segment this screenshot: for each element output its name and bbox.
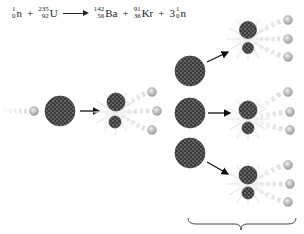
neutron-trail bbox=[254, 189, 257, 190]
neutron-icon bbox=[30, 107, 39, 116]
neutron-trail bbox=[266, 125, 269, 126]
neutron-trail bbox=[132, 99, 135, 101]
arrow-icon bbox=[207, 162, 228, 174]
neutron-trail bbox=[271, 24, 274, 26]
neutron-icon bbox=[284, 53, 293, 62]
uranium-nucleus bbox=[175, 98, 205, 128]
neutron-icon bbox=[284, 88, 293, 97]
neutron-trail bbox=[279, 128, 282, 129]
uranium-nucleus bbox=[175, 56, 205, 86]
krypton-fragment bbox=[109, 116, 121, 128]
neutron-trail bbox=[122, 117, 125, 118]
neutron-trail bbox=[260, 116, 263, 117]
neutron-trail bbox=[277, 166, 280, 168]
neutron-trail bbox=[277, 199, 280, 200]
neutron-trail bbox=[277, 21, 280, 23]
barium-fragment bbox=[239, 166, 257, 184]
barium-fragment bbox=[107, 93, 125, 111]
neutron-trail bbox=[266, 194, 269, 195]
neutron-trail bbox=[271, 98, 274, 100]
neutron-trail bbox=[266, 49, 269, 50]
neutron-trail bbox=[271, 197, 274, 198]
neutron-icon bbox=[284, 35, 293, 44]
neutron-icon bbox=[148, 126, 157, 135]
chain-reaction-diagram bbox=[0, 0, 304, 234]
neutron-trail bbox=[266, 115, 269, 116]
neutron-trail bbox=[260, 123, 263, 124]
neutron-trail bbox=[271, 52, 274, 53]
krypton-fragment bbox=[243, 43, 254, 54]
neutron-trail bbox=[273, 114, 276, 115]
neutron-trail bbox=[254, 117, 257, 118]
krypton-fragment bbox=[242, 122, 254, 134]
neutron-trail bbox=[132, 122, 135, 123]
barium-fragment bbox=[239, 101, 257, 119]
brace-icon bbox=[188, 218, 296, 230]
neutron-icon bbox=[286, 126, 295, 135]
neutron-trail bbox=[142, 93, 145, 95]
neutron-trail bbox=[277, 54, 280, 55]
neutron-icon bbox=[153, 107, 162, 116]
neutron-icon bbox=[284, 198, 293, 207]
neutron-trail bbox=[137, 96, 140, 98]
neutron-trail bbox=[260, 191, 263, 192]
neutron-trail bbox=[271, 169, 274, 171]
neutron-trail bbox=[266, 172, 269, 174]
uranium-nucleus bbox=[175, 138, 205, 168]
neutron-trail bbox=[254, 122, 257, 123]
neutron-trail bbox=[273, 127, 276, 128]
neutron-trail bbox=[260, 106, 263, 108]
neutron-trail bbox=[266, 102, 269, 104]
arrow-icon bbox=[207, 52, 228, 62]
neutron-trail bbox=[277, 94, 280, 96]
neutron-trail bbox=[254, 44, 257, 45]
neutron-trail bbox=[260, 30, 263, 32]
neutron-icon bbox=[286, 108, 295, 117]
neutron-icon bbox=[148, 88, 157, 97]
neutron-trail bbox=[260, 46, 263, 47]
neutron-trail bbox=[142, 127, 145, 128]
uranium-nucleus bbox=[45, 96, 75, 126]
neutron-trail bbox=[127, 119, 130, 120]
barium-fragment bbox=[240, 22, 257, 39]
krypton-fragment bbox=[242, 187, 254, 199]
neutron-icon bbox=[284, 161, 293, 170]
neutron-trail bbox=[127, 102, 130, 104]
neutron-trail bbox=[266, 27, 269, 29]
neutron-icon bbox=[284, 16, 293, 25]
neutron-icon bbox=[286, 180, 295, 189]
neutron-trail bbox=[137, 125, 140, 126]
diagram-layer bbox=[4, 16, 296, 231]
neutron-trail bbox=[260, 175, 263, 177]
neutron-trail bbox=[279, 112, 282, 113]
